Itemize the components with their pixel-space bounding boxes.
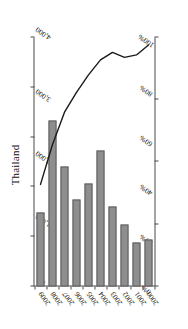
percent-line-series [34,37,154,286]
percent-tick [30,285,34,286]
category-label-2009: 2009 [36,289,52,306]
percent-tick [30,136,34,137]
percent-tick [30,36,34,37]
category-label-2006: 2006 [72,289,88,306]
chart-screenshot: Thailand 2000200120022003200420052006200… [0,0,188,329]
percent-tick [30,185,34,186]
category-label-2002: 2002 [120,289,136,306]
chart-figure: Thailand 2000200120022003200420052006200… [0,0,188,329]
category-label-2003: 2003 [108,289,124,306]
value-tick [154,36,158,37]
value-tick [154,285,158,286]
rotated-figure-wrapper: Thailand 2000200120022003200420052006200… [0,0,188,329]
category-label-2008: 2008 [48,289,64,306]
chart-title: Thailand [8,0,20,329]
value-tick [154,223,158,224]
value-tick [154,161,158,162]
plot-area: 2000200120022003200420052006200720082009… [34,37,154,286]
percent-tick [30,86,34,87]
category-label-2007: 2007 [60,289,76,306]
value-tick [154,98,158,99]
percent-tick [30,235,34,236]
category-label-2005: 2005 [84,289,100,306]
category-label-2004: 2004 [96,289,112,306]
